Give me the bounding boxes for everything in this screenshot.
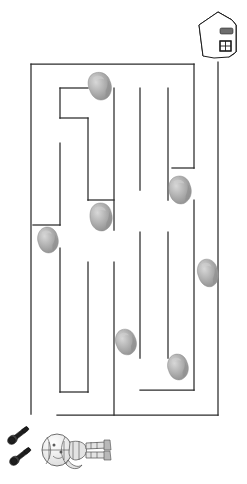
rock-6 — [112, 326, 140, 357]
house-goal-icon — [199, 12, 236, 58]
maze-walls — [31, 62, 218, 415]
rock-3 — [87, 201, 114, 233]
maze-worksheet-page: Maze Puzzle Worksheet Black-and-white pr… — [0, 0, 247, 484]
house-mail-slot-icon — [220, 28, 233, 34]
maze-canvas — [0, 0, 247, 484]
figure-boot-lower-icon — [104, 451, 111, 460]
figure-eye-right-icon — [60, 451, 63, 454]
bolt-icon-2 — [8, 445, 33, 467]
maze-outer-walls — [31, 62, 218, 415]
rock-7 — [165, 352, 192, 383]
rock-4 — [166, 173, 195, 206]
bolt-icon-1 — [6, 424, 31, 446]
rock-1 — [85, 69, 115, 103]
rock-2 — [35, 225, 61, 255]
figure-boot-upper-icon — [104, 440, 111, 450]
figure-eye-left-icon — [53, 444, 56, 447]
figure-arm-icon — [66, 460, 82, 469]
figure-torso-icon — [69, 441, 87, 460]
start-scene — [6, 424, 111, 468]
figure-icon — [42, 434, 111, 469]
